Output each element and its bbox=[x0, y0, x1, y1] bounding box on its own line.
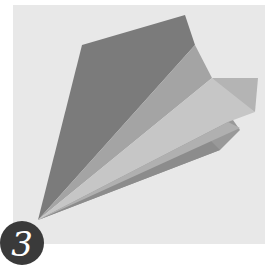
step-number-badge: 3 bbox=[0, 221, 44, 265]
paper-airplane-illustration bbox=[0, 0, 265, 265]
step-number: 3 bbox=[11, 227, 33, 261]
